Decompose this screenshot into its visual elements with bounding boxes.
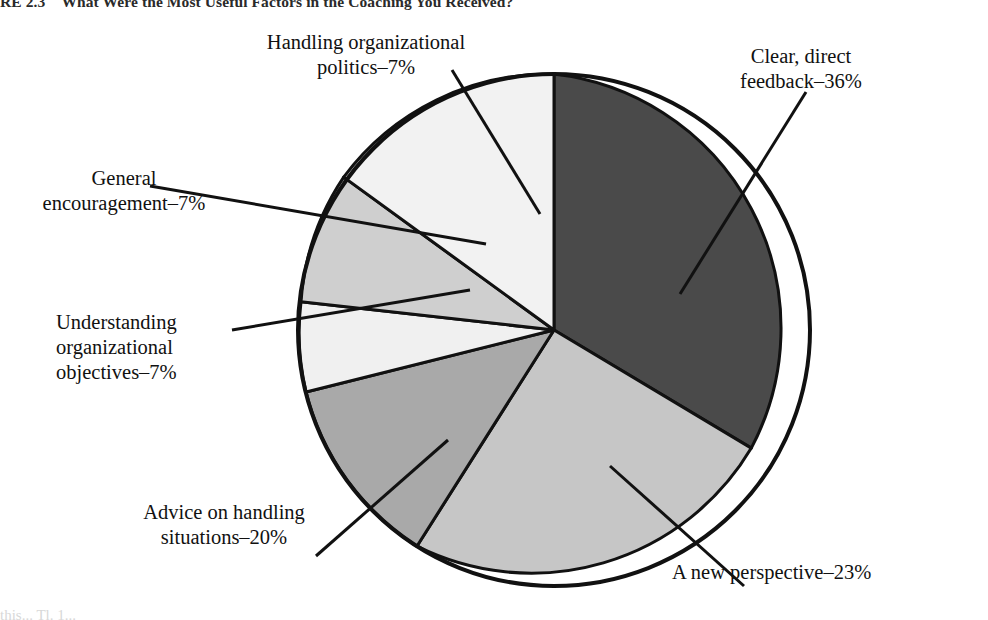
slice-label-understanding-organizational-objectives: Understanding organizational objectives–… <box>56 310 266 385</box>
slice-label-clear-direct-feedback: Clear, direct feedback–36% <box>676 44 926 94</box>
slice-label-a-new-perspective: A new perspective–23% <box>672 560 972 585</box>
slice-label-advice-on-handling-situations: Advice on handling situations–20% <box>98 500 350 550</box>
slice-label-handling-organizational-politics: Handling organizational politics–7% <box>232 30 500 80</box>
bottom-caption: this... Tl. 1... <box>0 607 988 620</box>
pie-chart: Handling organizational politics–7% Clea… <box>0 0 988 620</box>
figure-page: RE 2.3What Were the Most Useful Factors … <box>0 0 988 620</box>
slice-label-general-encouragement: General encouragement–7% <box>10 166 238 216</box>
